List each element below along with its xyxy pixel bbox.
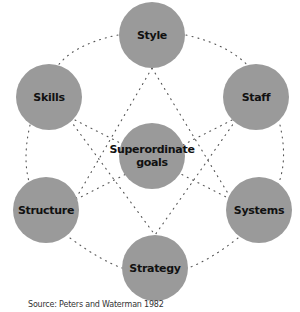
source-caption: Source: Peters and Waterman 1982 bbox=[28, 300, 164, 309]
node-structure: Structure bbox=[13, 177, 79, 243]
node-label: Staff bbox=[242, 91, 271, 104]
node-label: Systems bbox=[234, 204, 284, 217]
node-label: Style bbox=[137, 29, 167, 42]
node-label: Structure bbox=[18, 204, 74, 217]
node-label: Skills bbox=[33, 91, 64, 104]
node-strategy: Strategy bbox=[122, 235, 188, 301]
node-systems: Systems bbox=[226, 177, 292, 243]
node-label: Superordinate goals bbox=[107, 143, 196, 169]
node-staff: Staff bbox=[223, 64, 289, 130]
node-skills: Skills bbox=[16, 64, 82, 130]
node-label: Strategy bbox=[129, 262, 180, 275]
node-superordinate-goals: Superordinate goals bbox=[119, 123, 185, 189]
node-style: Style bbox=[119, 2, 185, 68]
